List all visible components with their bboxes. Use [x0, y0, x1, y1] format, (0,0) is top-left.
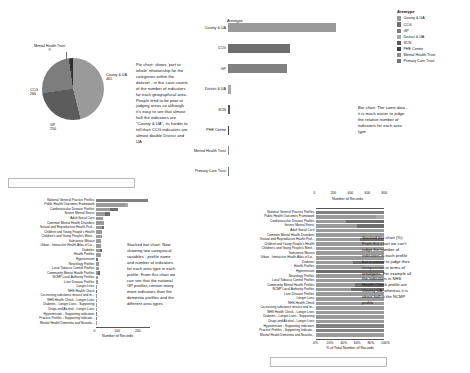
stacked-bar-segment[interactable] — [316, 320, 384, 324]
x-axis-line — [96, 327, 150, 328]
bar-chart-row[interactable]: Mental Health Trust — [228, 145, 338, 157]
stacked-bar-row[interactable]: Mental Health Dementia and Neurolo... — [96, 321, 150, 326]
legend-item[interactable]: PHE Centre — [397, 47, 467, 51]
stacked-bar-segment[interactable] — [96, 321, 97, 325]
legend-item[interactable]: GP — [397, 29, 467, 33]
top-x-axis-tick-label: 400 — [348, 191, 354, 195]
stacked-bar-row[interactable]: Mental Health Dementia and Neurolo... — [316, 333, 384, 338]
bar-segment[interactable] — [228, 126, 229, 135]
bar-chart-panel: Areatype County & UACCGGPDistrict & UASC… — [228, 4, 398, 179]
stacked-bar-segment[interactable] — [98, 271, 99, 275]
bar-segment[interactable] — [228, 44, 290, 53]
stacked-bar-segment[interactable] — [316, 311, 384, 315]
stacked-bar-segment[interactable] — [100, 249, 102, 253]
pie-chart-note: Pie chart: shows 'part to whole' relatio… — [136, 62, 188, 145]
stacked-bar-segment[interactable] — [357, 224, 384, 228]
stacked-bar-segment[interactable] — [96, 212, 105, 216]
legend-item[interactable]: CCG — [397, 22, 467, 26]
pie-label-name: Mental Health Trust — [34, 44, 65, 48]
legend-item[interactable]: Mental Health Trust — [397, 53, 467, 57]
stacked-bar-segment[interactable] — [96, 239, 101, 243]
stacked-bar-segment[interactable] — [316, 220, 346, 224]
legend-swatch-icon — [397, 29, 401, 33]
bar-chart-row[interactable]: County & UA — [228, 22, 338, 34]
stacked-bar-segment[interactable] — [316, 333, 384, 337]
legend-item-label: CCG — [403, 23, 411, 27]
bar-chart-row[interactable]: District & UA — [228, 84, 338, 96]
bar-chart-row[interactable]: GP — [228, 63, 338, 75]
stacked-bar-segment[interactable] — [316, 265, 365, 269]
bar-chart-row[interactable]: CCG — [228, 43, 338, 55]
stacked-bar-segment[interactable] — [96, 317, 97, 321]
bar-segment[interactable] — [228, 85, 231, 94]
pie-chart[interactable] — [42, 58, 104, 120]
stacked-bar-segment[interactable] — [125, 203, 127, 207]
stacked-bar-segment[interactable] — [96, 235, 102, 239]
stacked-bar-segment[interactable] — [96, 290, 97, 294]
stacked-bar-segment[interactable] — [316, 324, 384, 328]
legend-item-label: Mental Health Trust — [403, 53, 435, 57]
pie-slices[interactable] — [42, 58, 104, 120]
stacked-bar-segment[interactable] — [316, 283, 355, 287]
stacked-bar-segment[interactable] — [96, 217, 103, 221]
stacked-bar-segment[interactable] — [316, 215, 376, 219]
stacked-bar-segment[interactable] — [96, 262, 99, 266]
stacked-bar-segment[interactable] — [316, 238, 360, 242]
stacked-bar-segment[interactable] — [105, 212, 110, 216]
stacked-bar-segment[interactable] — [96, 285, 97, 289]
stacked-bar-segment[interactable] — [346, 220, 384, 224]
bar-segment[interactable] — [228, 146, 229, 155]
bar-chart-row[interactable]: SCN — [228, 104, 338, 116]
top-x-axis-tick-label: 800 — [382, 191, 388, 195]
bottom-x-axis-tick-label: 0% — [313, 341, 318, 345]
stacked-bar-segment[interactable] — [102, 226, 104, 230]
stacked-bar-segment[interactable] — [100, 253, 101, 257]
pie-label-ccg: CCG 266 — [30, 88, 38, 97]
stacked-bar-segment[interactable] — [96, 244, 101, 248]
stacked-bar-segment[interactable] — [96, 208, 110, 212]
bar-category-label: CCG — [218, 46, 226, 50]
stacked-bar-segment[interactable] — [96, 203, 125, 207]
scrollbar-right-bottom[interactable] — [270, 357, 387, 367]
legend-item[interactable]: SCN — [397, 41, 467, 45]
stacked-left-note: Stacked bar chart: Now showing two categ… — [127, 242, 177, 307]
legend-items[interactable]: County & UACCGGPDistrict & UASCNPHE Cent… — [397, 16, 467, 63]
stacked-bar-segment[interactable] — [316, 306, 384, 310]
stacked-bar-segment[interactable] — [96, 299, 97, 303]
legend-swatch-icon — [397, 59, 401, 63]
legend-item[interactable]: District & UA — [397, 35, 467, 39]
stacked-bar-segment[interactable] — [316, 229, 384, 233]
bar-chart-row[interactable]: PHE Centre — [228, 125, 338, 137]
bar-segment[interactable] — [228, 64, 287, 73]
stacked-bar-segment[interactable] — [316, 224, 357, 228]
pie-label-value: 461 — [106, 77, 112, 81]
stacked-bar-segment[interactable] — [376, 215, 384, 219]
legend-item[interactable]: County & UA — [397, 16, 467, 20]
stacked-bar-segment[interactable] — [316, 211, 384, 215]
stacked-bar-segment[interactable] — [96, 276, 98, 280]
stacked-bar-segment[interactable] — [96, 308, 97, 312]
bar-segment[interactable] — [228, 167, 229, 176]
stacked-bar-segment[interactable] — [110, 208, 119, 212]
stacked-bar-segment[interactable] — [96, 312, 97, 316]
x-axis-tick-label: 0 — [94, 329, 96, 333]
pie-label-gp: GP 250 — [50, 123, 56, 132]
stacked-bar-segment[interactable] — [96, 303, 97, 307]
bottom-x-axis-title: % of Total Number of Records — [326, 346, 374, 350]
stacked-bar-segment[interactable] — [96, 230, 102, 234]
bar-segment[interactable] — [228, 23, 336, 32]
bar-chart-row[interactable]: Primary Care Trust — [228, 166, 338, 178]
stacked-bar-segment[interactable] — [96, 258, 98, 262]
stacked-bar-segment[interactable] — [316, 261, 353, 265]
scrollbar-left-top[interactable] — [8, 178, 135, 188]
stacked-bar-segment[interactable] — [96, 221, 104, 225]
bar-segment[interactable] — [228, 105, 230, 114]
stacked-bar-segment[interactable] — [96, 267, 99, 271]
stacked-bar-segment[interactable] — [96, 199, 148, 203]
stacked-bar-segment[interactable] — [96, 280, 98, 284]
stacked-bar-segment[interactable] — [316, 315, 384, 319]
stacked-bar-segment[interactable] — [96, 294, 97, 298]
legend-item[interactable]: Primary Care Trust — [397, 59, 467, 63]
stacked-bar-segment[interactable] — [316, 288, 351, 292]
stacked-bar-segment[interactable] — [316, 329, 384, 333]
